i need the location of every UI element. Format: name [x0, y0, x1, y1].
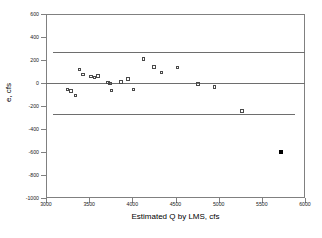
y-tick-label: -600 — [0, 149, 39, 155]
y-tick-mark — [41, 37, 46, 38]
y-tick-mark — [41, 106, 46, 107]
data-point-marker — [160, 71, 163, 74]
data-point-marker — [74, 94, 77, 97]
data-point-marker — [78, 68, 81, 71]
data-point-marker — [152, 65, 155, 68]
x-tick-label: 3500 — [69, 201, 109, 207]
residual-scatter-chart: 6004002000-200-400-600-800-1000 30003500… — [0, 0, 322, 238]
outlier-marker — [279, 150, 283, 154]
y-axis-title: e, cfs — [4, 69, 13, 117]
lower-limit-line — [53, 114, 295, 115]
y-tick-label: -1000 — [0, 195, 39, 201]
data-point-marker — [81, 73, 84, 76]
y-tick-label: 400 — [0, 34, 39, 40]
y-tick-label: -400 — [0, 126, 39, 132]
x-tick-label: 5000 — [199, 201, 239, 207]
x-tick-label: 4500 — [156, 201, 196, 207]
y-tick-label: 600 — [0, 11, 39, 17]
data-point-marker — [119, 80, 122, 83]
x-axis-title: Estimated Q by LMS, cfs — [46, 212, 305, 221]
x-tick-label: 3000 — [26, 201, 66, 207]
y-tick-label: 200 — [0, 57, 39, 63]
y-tick-mark — [41, 14, 46, 15]
y-tick-mark — [41, 60, 46, 61]
upper-limit-line — [53, 52, 305, 53]
y-tick-mark — [41, 175, 46, 176]
x-tick-label: 5500 — [242, 201, 282, 207]
data-point-marker — [196, 82, 199, 85]
data-point-marker — [213, 85, 216, 88]
data-point-marker — [126, 77, 129, 80]
x-tick-label: 6000 — [285, 201, 322, 207]
data-point-marker — [110, 89, 113, 92]
data-point-marker — [240, 109, 243, 112]
data-point-marker — [69, 89, 72, 92]
y-tick-label: -800 — [0, 172, 39, 178]
y-tick-mark — [41, 129, 46, 130]
y-tick-mark — [41, 152, 46, 153]
plot-area — [46, 14, 305, 198]
data-point-marker — [132, 88, 135, 91]
zero-line — [46, 83, 305, 84]
data-point-marker — [108, 82, 111, 85]
data-point-marker — [142, 57, 145, 60]
data-point-marker — [176, 66, 179, 69]
x-tick-label: 4000 — [112, 201, 152, 207]
data-point-marker — [96, 74, 99, 77]
